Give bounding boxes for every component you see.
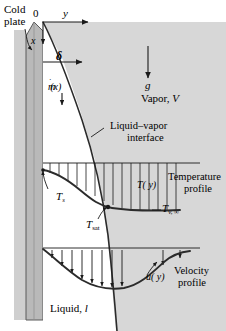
- temp-sat-subscript: sat: [92, 224, 100, 231]
- temperature-vapor-inf-label: Tv, ∞: [162, 203, 179, 215]
- liquid-region-label: Liquid, l: [50, 303, 88, 315]
- film-thickness-label: δ: [56, 50, 62, 63]
- cold-plate-label-line2: plate: [4, 16, 25, 28]
- temperature-function-label: T( y): [137, 180, 156, 191]
- temperature-profile-label-line1: Temperature: [168, 171, 221, 182]
- mass-flow-argument: (x): [50, 81, 61, 92]
- temp-wall-subscript: s: [62, 196, 65, 203]
- temperature-sat-label: Tsat: [86, 219, 100, 231]
- liquid-region-word: Liquid,: [50, 302, 82, 314]
- origin-label: 0: [33, 8, 39, 20]
- liquid-region-symbol: l: [85, 302, 88, 314]
- velocity-function-argument: ( y): [151, 271, 165, 282]
- y-axis-label: y: [63, 8, 68, 20]
- interface-label-line2: interface: [127, 132, 164, 143]
- temperature-profile-label-line2: profile: [184, 183, 212, 194]
- temp-function-argument: ( y): [143, 179, 157, 190]
- mass-flow-label: ṁ(x): [48, 82, 66, 93]
- velocity-profile-label-line2: profile: [178, 277, 206, 288]
- vapor-region-word: Vapor,: [141, 92, 170, 104]
- condensation-schematic-figure: Cold plate 0 y x δ ṁ(x) g Vapor, V Liqu…: [0, 0, 226, 331]
- vapor-region-symbol: V: [172, 92, 179, 104]
- plate-backdrop: [14, 30, 26, 320]
- temp-vapor-inf-subscript: v, ∞: [168, 208, 179, 215]
- x-axis-label: x: [31, 36, 35, 47]
- cold-plate: [26, 22, 43, 320]
- velocity-function-label: u( y): [146, 272, 165, 283]
- vapor-region-label: Vapor, V: [141, 93, 179, 105]
- velocity-profile-label-line1: Velocity: [174, 265, 209, 276]
- gravity-label: g: [145, 80, 151, 92]
- temperature-wall-label: Ts: [56, 191, 65, 203]
- interface-label-line1: Liquid–vapor: [110, 120, 167, 131]
- cold-plate-label-line1: Cold: [4, 4, 25, 16]
